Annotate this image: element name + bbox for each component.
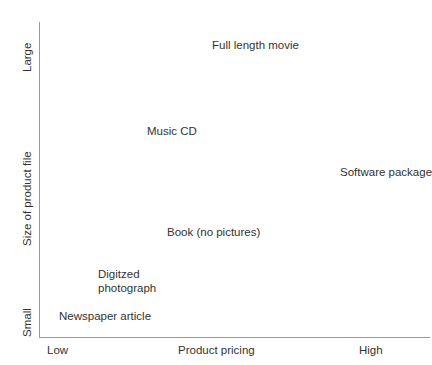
x-axis-line (39, 337, 430, 338)
x-axis-title: Product pricing (178, 345, 255, 357)
data-point-label-newspaper-article: Newspaper article (59, 309, 151, 323)
y-axis-line (39, 22, 40, 338)
data-point-label-software-package: Software package (340, 165, 432, 179)
product-pricing-size-chart: Large Size of product file Small Low Pro… (0, 0, 432, 365)
y-axis-tick-label-large: Large (22, 43, 34, 72)
y-axis-tick-label-small: Small (22, 308, 34, 337)
y-axis-title: Size of product file (22, 151, 34, 246)
data-point-label-full-length-movie: Full length movie (212, 38, 299, 52)
data-point-label-music-cd: Music CD (147, 124, 197, 138)
x-axis-tick-label-high: High (359, 345, 383, 357)
data-point-label-book-no-pictures: Book (no pictures) (167, 225, 260, 239)
x-axis-tick-label-low: Low (47, 345, 68, 357)
